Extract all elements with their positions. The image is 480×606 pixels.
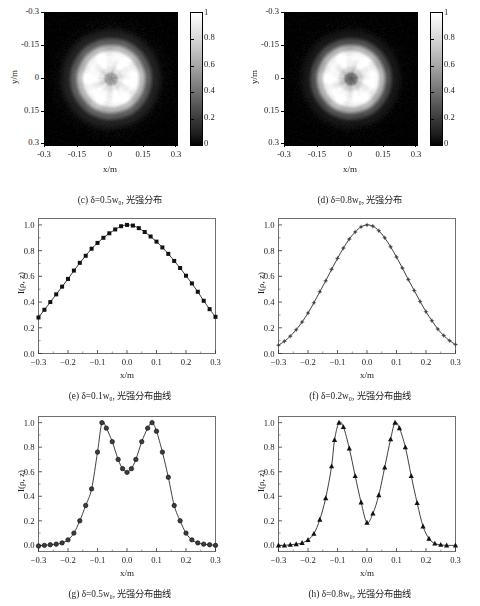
svg-text:0.2: 0.2 (24, 516, 35, 526)
svg-text:0.3: 0.3 (450, 555, 461, 565)
xtick (383, 144, 384, 147)
svg-text:−0.3: −0.3 (31, 555, 47, 565)
svg-text:0.0: 0.0 (264, 349, 275, 359)
xtick (77, 144, 78, 147)
plot-h-ylabel: I(ρ, z) (256, 451, 266, 511)
svg-text:0.2: 0.2 (24, 323, 35, 333)
colorbar-tick-label: 0.8 (204, 33, 215, 42)
plot-f-xlabel: x/m (278, 370, 456, 380)
svg-text:−0.1: −0.1 (330, 357, 346, 367)
svg-text:−0.2: −0.2 (300, 357, 316, 367)
ytick-label: -0.3 (0, 7, 39, 16)
colorbar-tick-label: 0.2 (444, 113, 455, 122)
colorbar-d (430, 12, 443, 146)
colorbar-tick-label: 0 (444, 139, 448, 148)
colorbar-tick-label: 0.4 (444, 86, 455, 95)
panel-g-caption: (g) δ=0.5w₀, 光强分布曲线 (0, 586, 240, 600)
panel-g: −0.3−0.2−0.10.00.10.20.30.00.20.40.60.81… (0, 404, 240, 606)
svg-text:0.3: 0.3 (210, 357, 221, 367)
colorbar-tick-label: 0.8 (444, 33, 455, 42)
svg-text:0.2: 0.2 (264, 323, 275, 333)
ytick (281, 111, 284, 112)
svg-text:1.0: 1.0 (264, 220, 275, 230)
svg-text:0.2: 0.2 (421, 357, 432, 367)
svg-text:−0.1: −0.1 (330, 555, 346, 565)
svg-text:0.0: 0.0 (122, 555, 133, 565)
svg-text:0.0: 0.0 (362, 357, 373, 367)
heatmap-c-xlabel: x/m (44, 164, 176, 174)
svg-text:0.2: 0.2 (181, 555, 192, 565)
svg-text:0.0: 0.0 (362, 555, 373, 565)
panel-f-caption: (f) δ=0.2w₀, 光强分布曲线 (240, 388, 480, 402)
svg-text:0.0: 0.0 (24, 540, 35, 550)
svg-text:0.1: 0.1 (391, 555, 402, 565)
panel-h: −0.3−0.2−0.10.00.10.20.30.00.20.40.60.81… (240, 404, 480, 606)
figure-root: -0.3 -0.15 0 0.15 0.3 y/m -0.3 -0.15 0 0… (0, 0, 480, 606)
svg-text:0.1: 0.1 (151, 357, 162, 367)
xtick (44, 144, 45, 147)
xtick (350, 144, 351, 147)
xtick (284, 144, 285, 147)
panel-f: −0.3−0.2−0.10.00.10.20.30.00.20.40.60.81… (240, 208, 480, 406)
ytick-label: 0.15 (0, 106, 39, 115)
panel-e: −0.3−0.2−0.10.00.10.20.30.00.20.40.60.81… (0, 208, 240, 406)
ytick (41, 45, 44, 46)
panel-e-caption: (e) δ=0.1w₀, 光强分布曲线 (0, 388, 240, 402)
xtick-label: 0.3 (156, 150, 196, 159)
panel-c: -0.3 -0.15 0 0.15 0.3 y/m -0.3 -0.15 0 0… (0, 0, 240, 210)
ytick-label: -0.15 (0, 40, 39, 49)
svg-text:−0.2: −0.2 (60, 555, 76, 565)
colorbar-tick-label: 0.6 (204, 60, 215, 69)
ytick (281, 78, 284, 79)
svg-text:1.0: 1.0 (24, 418, 35, 428)
colorbar-tick-label: 0.6 (444, 60, 455, 69)
plot-g-xlabel: x/m (38, 568, 216, 578)
svg-text:0.2: 0.2 (264, 516, 275, 526)
plot-h-xlabel: x/m (278, 568, 456, 578)
svg-text:1.0: 1.0 (24, 220, 35, 230)
colorbar-c (190, 12, 203, 146)
ytick-label: -0.15 (240, 40, 279, 49)
heatmap-c-ylabel: y/m (9, 57, 19, 97)
panel-d: -0.3 -0.15 0 0.15 0.3 y/m -0.3 -0.15 0 0… (240, 0, 480, 210)
heatmap-d-xlabel: x/m (284, 164, 416, 174)
svg-text:0.2: 0.2 (181, 357, 192, 367)
colorbar-tick-label: 0.2 (204, 113, 215, 122)
ytick (41, 78, 44, 79)
panel-d-caption: (d) δ=0.8w₀, 光强分布 (240, 192, 480, 206)
ytick (281, 45, 284, 46)
xtick (415, 144, 416, 147)
svg-text:−0.3: −0.3 (271, 555, 287, 565)
ytick-label: 0 (0, 73, 39, 82)
svg-text:−0.2: −0.2 (300, 555, 316, 565)
svg-text:0.2: 0.2 (421, 555, 432, 565)
plot-g-ylabel: I(ρ, z) (16, 451, 26, 511)
svg-text:0.0: 0.0 (122, 357, 133, 367)
heatmap-d-canvas (285, 13, 417, 145)
panel-c-caption: (c) δ=0.5w₀, 光强分布 (0, 192, 240, 206)
svg-text:0.3: 0.3 (450, 357, 461, 367)
plot-e-xlabel: x/m (38, 370, 216, 380)
xtick (317, 144, 318, 147)
ytick-label: 0 (240, 73, 279, 82)
colorbar-tick-label: 1 (444, 8, 448, 17)
ytick (41, 111, 44, 112)
heatmap-d-frame (284, 12, 418, 146)
xtick (175, 144, 176, 147)
plot-e-ylabel: I(ρ, z) (16, 253, 26, 313)
xtick (110, 144, 111, 147)
ytick-label: 0.3 (0, 138, 39, 147)
colorbar-tick-label: 1 (204, 8, 208, 17)
ytick (41, 12, 44, 13)
svg-text:1.0: 1.0 (264, 418, 275, 428)
panel-h-caption: (h) δ=0.8w₀, 光强分布曲线 (240, 586, 480, 600)
svg-text:0.3: 0.3 (210, 555, 221, 565)
heatmap-d-ylabel: y/m (249, 57, 259, 97)
svg-text:0.0: 0.0 (264, 540, 275, 550)
svg-text:0.1: 0.1 (151, 555, 162, 565)
ytick-label: 0.3 (240, 138, 279, 147)
heatmap-c-frame (44, 12, 178, 146)
xtick-label: 0.3 (396, 150, 436, 159)
svg-text:−0.1: −0.1 (90, 555, 106, 565)
svg-text:0.0: 0.0 (24, 349, 35, 359)
